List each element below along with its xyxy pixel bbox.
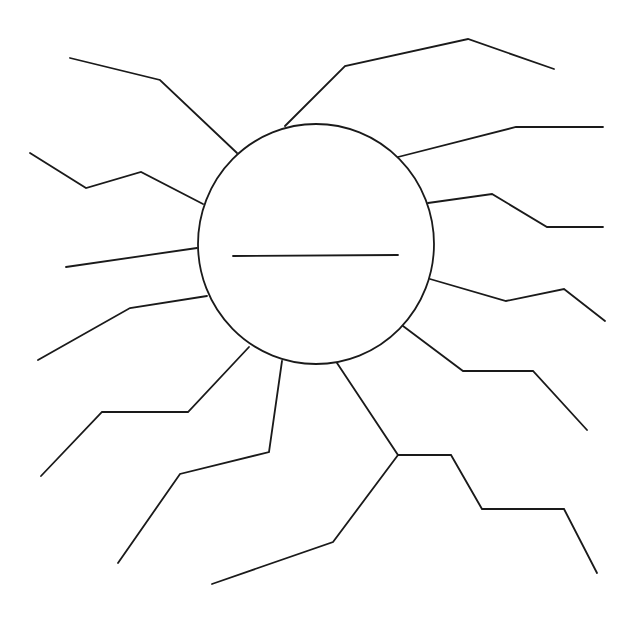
ray-line-10 [41,347,249,476]
ray-line-6 [403,326,587,430]
ray-line-3 [398,127,603,157]
ray-line-9 [118,361,282,563]
ray-line-13 [30,153,203,204]
center-circle [198,124,434,364]
center-blank-line [233,255,398,256]
ray-line-7 [337,363,597,573]
ray-line-8 [212,455,398,584]
ray-line-11 [38,296,207,360]
rays-group [30,39,605,584]
ray-line-4 [428,194,603,227]
diagram-svg [0,0,638,623]
ray-line-1 [70,58,237,153]
sunburst-diagram [0,0,638,623]
ray-line-5 [430,279,605,321]
ray-line-12 [66,248,197,267]
ray-line-2 [285,39,554,126]
